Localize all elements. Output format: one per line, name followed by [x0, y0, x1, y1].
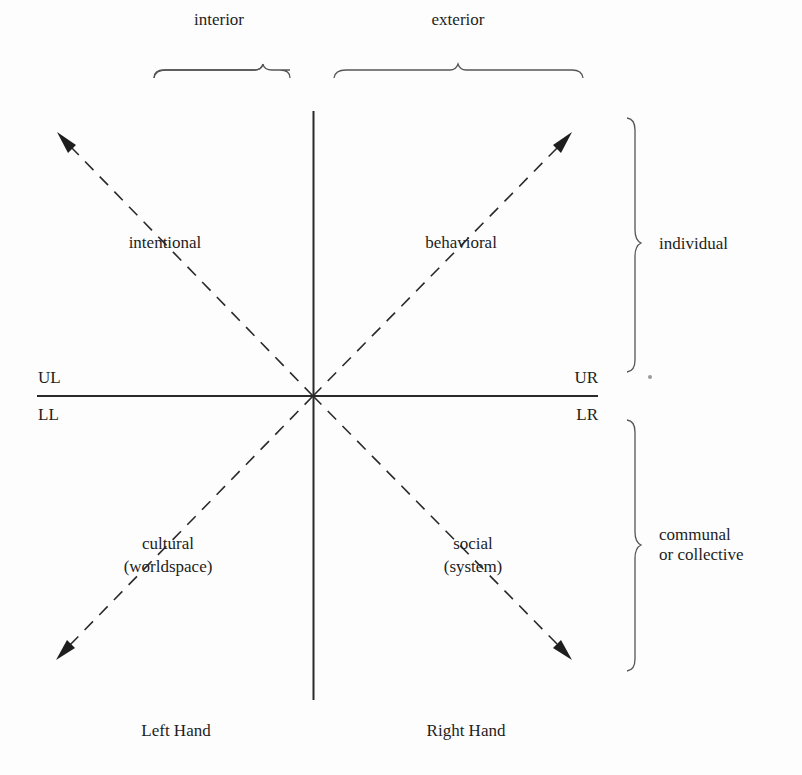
quadrant-diagram	[0, 0, 802, 775]
quadrant-code-ul: UL	[38, 368, 61, 388]
quadrant-label-behavioral: behavioral	[425, 233, 497, 253]
quadrant-label-cultural: cultural	[142, 534, 194, 554]
interior-brace-left	[154, 64, 263, 78]
individual-label: individual	[659, 234, 728, 254]
quadrant-label-system: (system)	[444, 557, 503, 577]
interior-label: interior	[194, 10, 244, 30]
left-hand-label: Left Hand	[141, 721, 210, 741]
communal-label: communal	[659, 525, 731, 545]
exterior-label: exterior	[432, 10, 485, 30]
quadrant-code-ur: UR	[574, 368, 598, 388]
upper-right-arrow	[313, 132, 572, 396]
quadrant-code-lr: LR	[576, 405, 598, 425]
quadrant-label-worldspace: (worldspace)	[124, 557, 213, 577]
exterior-brace	[334, 64, 583, 78]
collective-label: or collective	[659, 545, 744, 565]
interior-brace	[154, 64, 290, 78]
communal-brace	[627, 420, 641, 671]
quadrant-label-social: social	[453, 534, 493, 554]
individual-brace	[627, 118, 641, 372]
quadrant-label-intentional: intentional	[129, 233, 202, 253]
upper-left-arrow	[57, 132, 313, 396]
lower-right-arrow	[313, 396, 572, 660]
quadrant-code-ll: LL	[38, 405, 59, 425]
right-hand-label: Right Hand	[427, 721, 506, 741]
lower-left-arrow	[56, 396, 313, 660]
stray-dot	[648, 375, 652, 379]
